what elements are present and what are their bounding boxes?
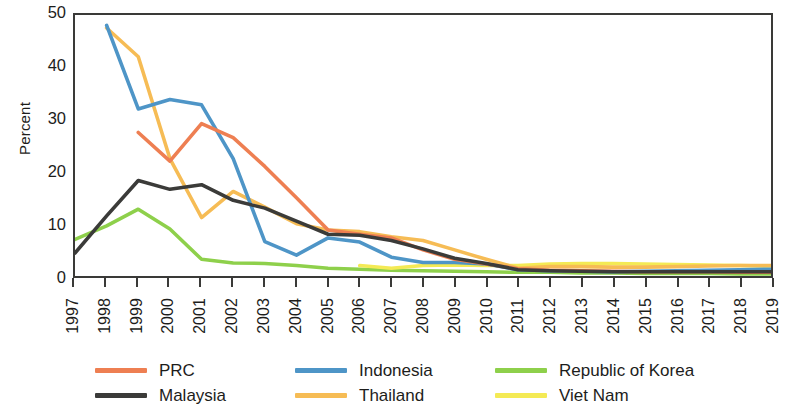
chart-legend: PRCIndonesiaRepublic of KoreaMalaysiaTha… — [95, 360, 755, 406]
x-tick-label: 2009 — [447, 284, 463, 348]
x-tick-label: 2001 — [192, 284, 208, 348]
x-tick-label: 1997 — [65, 284, 81, 348]
legend-label: Indonesia — [359, 362, 433, 379]
x-tick-label: 2000 — [160, 284, 176, 348]
series-lines — [75, 15, 771, 276]
x-tick-label: 2003 — [256, 284, 272, 348]
x-tick-label: 2006 — [351, 284, 367, 348]
series-line-malaysia — [75, 180, 771, 271]
legend-item-prc[interactable]: PRC — [95, 360, 195, 381]
x-tick-label: 2017 — [701, 284, 717, 348]
legend-color-swatch — [495, 393, 547, 398]
x-tick-label: 2002 — [224, 284, 240, 348]
legend-item-malaysia[interactable]: Malaysia — [95, 385, 226, 406]
y-tick-label: 20 — [26, 163, 66, 180]
y-tick-label: 50 — [26, 4, 66, 21]
plot-area — [73, 13, 773, 278]
series-line-indonesia — [107, 25, 771, 271]
x-tick-label: 2013 — [574, 284, 590, 348]
y-tick-label: 0 — [26, 269, 66, 286]
y-axis-tick-labels: 01020304050 — [18, 0, 66, 300]
legend-color-swatch — [495, 368, 547, 373]
x-tick-label: 2016 — [670, 284, 686, 348]
legend-label: Republic of Korea — [559, 362, 694, 379]
legend-color-swatch — [95, 368, 147, 373]
legend-label: Viet Nam — [559, 387, 629, 404]
legend-label: Malaysia — [159, 387, 226, 404]
x-tick-label: 2015 — [638, 284, 654, 348]
legend-item-republic-of-korea[interactable]: Republic of Korea — [495, 360, 694, 381]
x-tick-label: 2012 — [542, 284, 558, 348]
x-tick-label: 2018 — [733, 284, 749, 348]
x-axis-tick-labels: 1997199819992000200120022003200420052006… — [73, 288, 773, 350]
x-tick-label: 2014 — [606, 284, 622, 348]
x-tick-label: 1998 — [97, 284, 113, 348]
x-tick-label: 2010 — [479, 284, 495, 348]
y-tick-label: 30 — [26, 110, 66, 127]
y-tick-label: 40 — [26, 57, 66, 74]
line-chart: Percent 01020304050 19971998199920002001… — [0, 0, 789, 409]
x-tick-label: 2007 — [383, 284, 399, 348]
legend-color-swatch — [95, 393, 147, 398]
y-tick-label: 10 — [26, 216, 66, 233]
x-tick-label: 2004 — [288, 284, 304, 348]
x-tick-label: 2008 — [415, 284, 431, 348]
legend-label: PRC — [159, 362, 195, 379]
x-tick-label: 1999 — [129, 284, 145, 348]
legend-item-indonesia[interactable]: Indonesia — [295, 360, 433, 381]
x-tick-label: 2005 — [320, 284, 336, 348]
legend-color-swatch — [295, 393, 347, 398]
x-tick-label: 2019 — [765, 284, 781, 348]
x-tick-label: 2011 — [510, 284, 526, 348]
legend-color-swatch — [295, 368, 347, 373]
series-line-thailand — [107, 28, 771, 268]
legend-label: Thailand — [359, 387, 424, 404]
legend-item-viet-nam[interactable]: Viet Nam — [495, 385, 629, 406]
legend-item-thailand[interactable]: Thailand — [295, 385, 424, 406]
